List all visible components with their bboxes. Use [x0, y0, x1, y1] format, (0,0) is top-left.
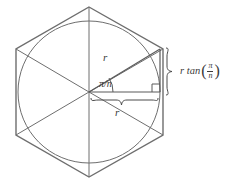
hypotenuse-label: r	[103, 52, 107, 63]
geometry-diagram: r r π/n r tan ( π n )	[0, 0, 228, 184]
height-label-numerator: π	[207, 62, 213, 70]
height-label-open-paren: (	[201, 63, 206, 79]
height-label-prefix: r tan	[180, 66, 200, 77]
base-label: r	[115, 107, 119, 118]
radius-to-lower-left	[16, 92, 89, 135]
diagram-canvas	[0, 0, 228, 184]
right-angle-marker	[152, 84, 160, 92]
angle-label: π/n	[99, 79, 112, 89]
radius-to-upper-left	[16, 49, 89, 92]
height-label-fraction: π n	[207, 62, 213, 81]
height-label: r tan ( π n )	[180, 62, 220, 81]
height-label-denominator: n	[207, 72, 213, 80]
height-brace	[166, 48, 172, 95]
height-label-close-paren: )	[214, 63, 219, 79]
radius-to-lower-right	[89, 92, 163, 135]
